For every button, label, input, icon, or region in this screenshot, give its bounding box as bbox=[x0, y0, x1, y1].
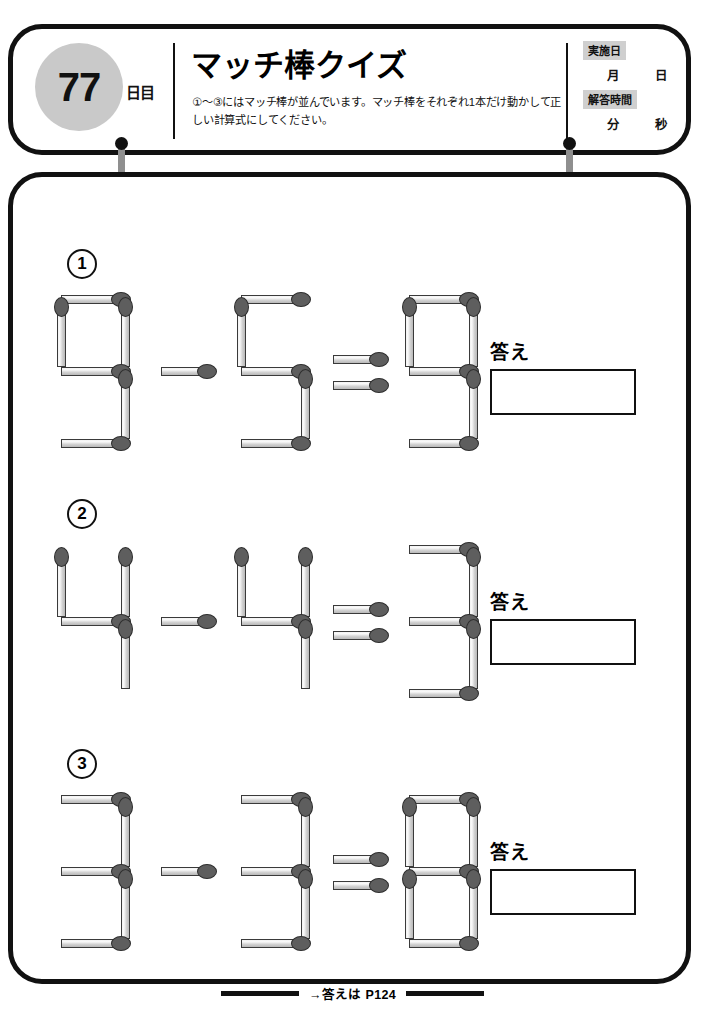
puzzle-index-1: 1 bbox=[67, 249, 97, 279]
time-tag-row: 解答時間 bbox=[579, 90, 695, 109]
month-unit: 月 bbox=[607, 65, 620, 84]
match-operator-equals-bottom bbox=[333, 381, 385, 390]
puzzle-body-panel: 1 答え bbox=[8, 172, 691, 984]
match-bottom-right bbox=[301, 373, 310, 439]
match-middle bbox=[61, 867, 127, 876]
day-number: 77 bbox=[58, 67, 101, 107]
match-bottom-right bbox=[121, 623, 130, 689]
match-operator-minus bbox=[161, 367, 213, 376]
match-top-left bbox=[405, 801, 414, 867]
match-top-left bbox=[405, 301, 414, 367]
match-bottom bbox=[61, 939, 127, 948]
match-middle bbox=[241, 617, 307, 626]
answer-box-3[interactable] bbox=[490, 869, 636, 915]
footer-rule-left bbox=[221, 991, 299, 996]
match-top-left bbox=[237, 551, 246, 617]
match-bottom-right bbox=[469, 873, 478, 939]
match-bottom-right bbox=[301, 873, 310, 939]
match-operator-equals-bottom bbox=[333, 631, 385, 640]
match-top bbox=[241, 295, 307, 304]
match-top bbox=[241, 795, 307, 804]
day-unit: 日 bbox=[655, 65, 668, 84]
answer-label-1: 答え bbox=[490, 337, 530, 364]
day-badge: 77 bbox=[35, 43, 123, 131]
day-unit-label: 日目 bbox=[126, 81, 154, 102]
answer-box-1[interactable] bbox=[490, 369, 636, 415]
match-top-right bbox=[469, 801, 478, 867]
match-top bbox=[61, 795, 127, 804]
second-unit: 秒 bbox=[655, 114, 668, 133]
match-top-left bbox=[57, 301, 66, 367]
puzzle-index-2: 2 bbox=[67, 499, 97, 529]
match-bottom-right bbox=[121, 373, 130, 439]
match-bottom bbox=[409, 439, 475, 448]
minute-unit: 分 bbox=[607, 114, 620, 133]
date-tag-row: 実施日 bbox=[579, 41, 695, 60]
match-top bbox=[409, 295, 475, 304]
match-operator-equals-top bbox=[333, 855, 385, 864]
instructions-text: ①〜③にはマッチ棒が並んでいます。マッチ棒をそれぞれ1本だけ動かして正しい計算式… bbox=[192, 93, 562, 130]
footer: →答えは P124 bbox=[0, 984, 705, 1003]
time-label: 解答時間 bbox=[583, 90, 637, 109]
match-bottom bbox=[61, 439, 127, 448]
footer-rule-right bbox=[406, 991, 484, 996]
answer-label-2: 答え bbox=[490, 587, 530, 614]
match-operator-equals-top bbox=[333, 355, 385, 364]
answer-page-reference: →答えは P124 bbox=[309, 984, 396, 1003]
match-bottom-right bbox=[469, 373, 478, 439]
answer-box-2[interactable] bbox=[490, 619, 636, 665]
match-middle bbox=[241, 367, 307, 376]
match-operator-minus bbox=[161, 617, 213, 626]
match-operator-equals-bottom bbox=[333, 881, 385, 890]
page-title: マッチ棒クイズ bbox=[191, 49, 407, 83]
match-top-right bbox=[469, 301, 478, 367]
match-top-right bbox=[469, 551, 478, 617]
match-bottom bbox=[409, 939, 475, 948]
match-middle bbox=[61, 617, 127, 626]
match-top-right bbox=[121, 551, 130, 617]
match-middle bbox=[241, 867, 307, 876]
match-middle bbox=[409, 617, 475, 626]
date-label: 実施日 bbox=[583, 41, 626, 60]
match-bottom-right bbox=[469, 623, 478, 689]
match-operator-equals-top bbox=[333, 605, 385, 614]
match-middle bbox=[409, 367, 475, 376]
match-bottom-left bbox=[405, 873, 414, 939]
match-top bbox=[409, 545, 475, 554]
match-bottom bbox=[241, 439, 307, 448]
match-bottom bbox=[409, 689, 475, 698]
puzzle-index-3: 3 bbox=[67, 749, 97, 779]
meta-block: 実施日 月 日 解答時間 分 秒 bbox=[579, 41, 695, 139]
match-bottom-right bbox=[301, 623, 310, 689]
match-top-right bbox=[121, 301, 130, 367]
match-top bbox=[61, 295, 127, 304]
match-top-right bbox=[301, 551, 310, 617]
header-divider-left bbox=[173, 43, 175, 139]
match-middle bbox=[61, 367, 127, 376]
match-top bbox=[409, 795, 475, 804]
header-panel: 77 日目 マッチ棒クイズ ①〜③にはマッチ棒が並んでいます。マッチ棒をそれぞれ… bbox=[8, 24, 691, 155]
answer-label-3: 答え bbox=[490, 837, 530, 864]
match-top-right bbox=[301, 801, 310, 867]
match-middle bbox=[409, 867, 475, 876]
date-fields[interactable]: 月 日 bbox=[579, 60, 695, 90]
match-bottom bbox=[241, 939, 307, 948]
match-bottom-right bbox=[121, 873, 130, 939]
match-top-right bbox=[121, 801, 130, 867]
time-fields[interactable]: 分 秒 bbox=[579, 109, 695, 139]
match-top-left bbox=[57, 551, 66, 617]
match-operator-minus bbox=[161, 867, 213, 876]
match-top-left bbox=[237, 301, 246, 367]
